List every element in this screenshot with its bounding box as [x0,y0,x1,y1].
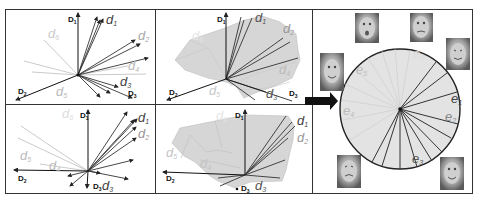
svg-text:D1: D1 [235,111,244,121]
label-d2: d2 [283,21,294,36]
label-d3: d3 [102,178,113,193]
label-d6: d6 [48,26,59,41]
face-thumbnail [440,157,464,190]
axis-label-D1: D1 [68,15,77,25]
panel-bottom-left: D1 D2 D3 d1 d2 d3 d4 d5 d6 [14,106,149,193]
label-d6: d6 [62,106,73,121]
label-d6: d6 [192,28,203,43]
right-arrow-icon [305,92,338,110]
svg-text:D1: D1 [80,111,89,121]
label-e6: e6 [413,46,424,61]
label-d2: d2 [138,28,149,43]
label-d5: d5 [56,84,67,99]
face-thumbnail [410,13,433,42]
label-d5: d5 [209,83,220,98]
figure: D1 D2 D3 d1 d2 d3 d4 d5 d6 [0,0,479,204]
axis-label-D3: D3 [128,89,137,99]
svg-text:D2: D2 [18,174,27,184]
svg-text:D2: D2 [166,174,175,184]
svg-text:D3: D3 [241,184,250,194]
axis-D3 [87,171,88,188]
svg-text:D3: D3 [289,89,298,99]
svg-text:D2: D2 [169,88,178,98]
panel-top-left: D1 D2 D3 d1 d2 d3 d4 d5 d6 [16,12,149,100]
face-thumbnail [337,155,361,188]
panel-right: e1 e2 e3 e4 e5 e6 [320,13,470,190]
label-d1: d1 [255,10,266,25]
face-thumbnail [355,13,379,43]
face-thumbnail [320,53,344,91]
label-d6: d6 [216,108,227,123]
face-thumbnail [446,38,470,70]
axis-label-D2: D2 [18,87,27,97]
panel-top-middle: D1 D2 D3 d1 d2 d3 d4 d5 d6 [167,10,300,101]
surface [172,115,294,188]
panel-bottom-middle: D1 D2 D3 d1 d2 d3 d4 d5 d6 [163,108,308,194]
label-d3: d3 [266,86,277,101]
label-d1: d1 [297,113,308,128]
label-d4: d4 [49,158,60,173]
label-d5: d5 [20,148,31,163]
label-e1: e1 [451,91,462,106]
label-d2: d2 [297,130,308,145]
svg-text:D3: D3 [93,182,102,192]
label-d3: d3 [120,74,131,89]
svg-text:D1: D1 [217,15,226,25]
label-d1: d1 [106,12,117,27]
label-d1: d1 [138,110,149,125]
label-d2: d2 [138,126,149,141]
